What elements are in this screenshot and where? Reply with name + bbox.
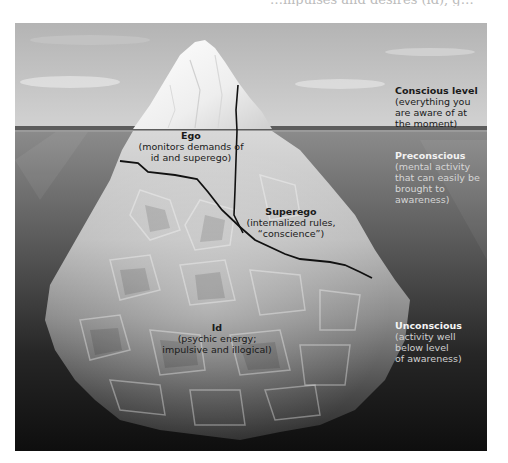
label-desc-line: “conscience”) [241, 228, 341, 239]
label-ego: Ego (monitors demands of id and superego… [135, 130, 247, 163]
label-desc-line: awareness) [395, 194, 480, 205]
label-desc-line: (psychic energy; [147, 333, 287, 344]
label-title: Preconscious [395, 150, 480, 161]
label-desc-line: the moment) [395, 118, 478, 129]
label-desc-line: brought to [395, 183, 480, 194]
label-preconscious: Preconscious (mental activity that can e… [395, 150, 480, 205]
label-desc-line: (activity well [395, 331, 462, 342]
iceberg-illustration: Conscious level (everything you are awar… [15, 23, 487, 451]
label-desc-line: impulsive and illogical) [147, 344, 287, 355]
label-title: Id [147, 322, 287, 333]
label-desc-line: (everything you [395, 96, 478, 107]
label-unconscious: Unconscious (activity well below level o… [395, 320, 462, 364]
label-superego: Superego (internalized rules, “conscienc… [241, 206, 341, 239]
label-desc-line: are aware of at [395, 107, 478, 118]
label-title: Conscious level [395, 85, 478, 96]
cropped-caption-text: …mpulses and desires (id), g… [270, 0, 506, 6]
label-desc-line: of awareness) [395, 353, 462, 364]
label-id: Id (psychic energy; impulsive and illogi… [147, 322, 287, 355]
label-desc-line: (internalized rules, [241, 217, 341, 228]
label-conscious-level: Conscious level (everything you are awar… [395, 85, 478, 129]
label-desc-line: id and superego) [135, 152, 247, 163]
label-desc-line: below level [395, 342, 462, 353]
label-title: Unconscious [395, 320, 462, 331]
label-desc-line: that can easily be [395, 172, 480, 183]
label-title: Ego [135, 130, 247, 141]
label-desc-line: (mental activity [395, 161, 480, 172]
label-title: Superego [241, 206, 341, 217]
label-desc-line: (monitors demands of [135, 141, 247, 152]
